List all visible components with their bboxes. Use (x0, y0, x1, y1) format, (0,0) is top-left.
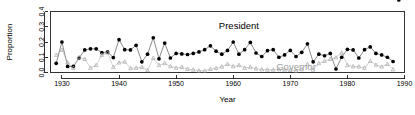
data-point-president (317, 52, 321, 56)
data-point-president (209, 44, 213, 48)
x-axis-tick-label: 1960 (225, 80, 241, 87)
series-label-governor: Governor (276, 61, 316, 72)
x-axis-tick-label: 1980 (340, 80, 356, 87)
data-point-president (129, 48, 133, 52)
proportion-time-series-chart: 0.00.10.20.30.41930194019501960197019801… (0, 0, 415, 115)
data-point-president (83, 48, 87, 52)
data-point-president (277, 55, 281, 59)
data-point-president (66, 65, 70, 69)
data-point-president (391, 60, 395, 64)
series-points-group (54, 0, 400, 72)
chart-container: 0.00.10.20.30.41930194019501960197019801… (0, 0, 415, 115)
data-point-president (340, 55, 344, 59)
series-annotations-group: PresidentGovernor (219, 20, 316, 72)
data-point-president (357, 56, 361, 60)
y-axis-tick-label: 0.2 (38, 37, 45, 47)
data-point-president (323, 54, 327, 58)
data-point-president (54, 62, 58, 66)
y-axis-tick-label: 0.3 (38, 22, 45, 32)
x-axis-tick-label: 1950 (168, 80, 184, 87)
data-point-president (266, 49, 270, 53)
data-point-president (300, 51, 304, 55)
data-point-president (214, 49, 218, 53)
data-point-president (288, 49, 292, 53)
data-point-president (151, 36, 155, 40)
data-point-president (134, 44, 138, 48)
data-point-president (374, 52, 378, 56)
data-point-president (363, 48, 367, 52)
data-point-president (243, 48, 247, 52)
tick-labels-group: 0.00.10.20.30.41930194019501960197019801… (38, 7, 413, 87)
data-point-president (294, 55, 298, 59)
data-point-president (226, 49, 230, 53)
x-axis-tick-label: 1990 (397, 80, 413, 87)
data-point-president (237, 52, 241, 56)
data-point-president (283, 53, 287, 57)
data-point-president (191, 52, 195, 56)
data-point-president (351, 48, 355, 52)
data-point-president (89, 47, 93, 51)
data-point-president (146, 52, 150, 56)
data-point-president (231, 40, 235, 44)
data-point-president (186, 53, 190, 57)
data-point-president (203, 48, 207, 52)
data-point-president (220, 52, 224, 56)
data-point-president (397, 0, 401, 2)
data-point-president (169, 56, 173, 60)
x-axis-tick-label: 1940 (111, 80, 127, 87)
data-point-president (60, 40, 64, 44)
data-point-president (380, 53, 384, 57)
data-point-president (163, 41, 167, 45)
data-point-president (94, 47, 98, 51)
data-point-president (117, 38, 121, 42)
data-point-president (157, 57, 161, 61)
data-point-president (328, 52, 332, 56)
y-axis-tick-label: 0.4 (38, 7, 45, 17)
data-point-president (368, 45, 372, 49)
data-point-president (111, 56, 115, 60)
data-point-president (334, 67, 338, 71)
data-point-president (197, 50, 201, 54)
series-label-president: President (219, 20, 259, 31)
x-axis-title: Year (219, 95, 236, 104)
data-point-president (306, 42, 310, 46)
data-point-president (346, 47, 350, 51)
data-point-president (248, 41, 252, 45)
y-axis-tick-label: 0.1 (38, 52, 45, 62)
y-axis-title: Proportion (5, 24, 14, 61)
data-point-president (271, 48, 275, 52)
data-point-president (140, 60, 144, 64)
data-point-president (180, 52, 184, 56)
data-point-president (260, 55, 264, 59)
data-point-president (123, 48, 127, 52)
data-point-president (174, 52, 178, 56)
x-axis-tick-label: 1970 (283, 80, 299, 87)
data-point-president (254, 51, 258, 55)
data-point-president (386, 55, 390, 59)
y-axis-tick-label: 0.0 (38, 68, 45, 78)
x-axis-tick-label: 1930 (54, 80, 70, 87)
